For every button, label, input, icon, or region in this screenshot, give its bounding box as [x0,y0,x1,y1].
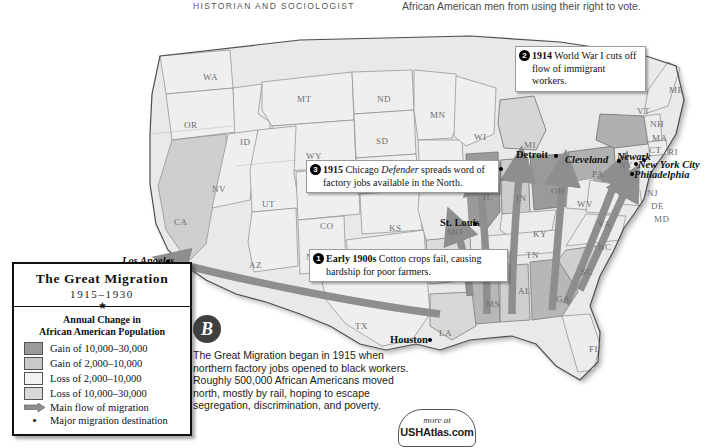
state-label-vt: VT [637,106,650,116]
legend-arrow-icon [24,403,45,412]
state-label-mt: MT [297,94,312,104]
legend-item-label: Gain of 2,000–10,000 [50,358,142,369]
city-label-cleveland: Cleveland [565,154,608,165]
state-label-ks: KS [389,223,402,233]
callout-1-number: 1 [313,253,324,264]
state-label-la: LA [439,328,452,338]
state-label-ma: MA [652,133,668,143]
state-label-nv: NV [212,184,226,194]
legend-dot-icon: • [24,416,45,426]
state-label-sd: SD [376,136,389,146]
state-label-md: MD [654,214,670,224]
callout-3-text: 1915 Chicago Defender spreads word of fa… [323,164,485,188]
state-label-fl: FL [589,344,601,354]
legend-item-label: Loss of 10,000–30,000 [50,388,147,399]
city-label-detroit: Detroit [516,149,548,160]
state-label-va: VA [598,219,611,229]
legend-item-label: Main flow of migration [50,402,149,413]
legend-subtitle-line1: Annual Change in [14,314,190,326]
city-dot-st-louis [473,222,477,226]
state-label-wv: WV [577,199,593,209]
state-label-nc: NC [598,242,612,252]
badge-line2: USHAtlas.com [399,426,475,438]
state-label-nh: NH [650,119,664,129]
state-label-de: DE [651,201,664,211]
city-dot-philadelphia [630,172,634,176]
callout-2-number: 2 [519,50,530,61]
state-label-oh: OH [551,186,565,196]
callout-1: 1 Early 1900s Cotton crops fail, causing… [309,249,508,282]
legend-swatch-icon [24,372,43,385]
city-dot-houston [428,338,432,342]
state-label-in: IN [516,193,527,203]
state-label-ca: CA [174,217,188,227]
legend-item: Loss of 10,000–30,000 [14,387,190,402]
legend-item: •Major migration destination [14,415,190,428]
legend-title: The Great Migration [18,271,186,287]
legend-swatch-icon [24,387,43,400]
state-label-tn: TN [526,250,539,260]
badge-line1: more at [399,415,475,425]
state-label-az: AZ [249,260,262,270]
legend-item-label: Major migration destination [50,415,168,426]
city-label-philadelphia: Philadelphia [634,169,689,180]
map-page: HISTORIAN AND SOCIOLOGIST African Americ… [0,0,707,448]
legend-years: 1915–1930 [18,288,186,300]
state-label-mn: MN [430,110,446,120]
callout-2-text: 1914 World War I cuts off flow of immigr… [532,50,636,86]
city-dot-new-york-city [634,162,638,166]
legend-subtitle: Annual Change in African American Popula… [14,314,190,338]
state-label-id: ID [240,137,251,147]
state-label-tx: TX [355,321,368,331]
section-marker-b: B [193,315,221,343]
state-label-ga: GA [556,294,570,304]
state-label-al: AL [518,286,531,296]
section-note-text: The Great Migration began in 1915 when n… [193,349,409,412]
state-label-nd: ND [377,94,391,104]
legend-swatch-icon [24,342,43,355]
callout-2: 2 1914 World War I cuts off flow of immi… [515,46,646,92]
legend-item: Loss of 2,000–10,000 [14,372,190,387]
state-label-ri: RI [668,147,678,157]
legend-subtitle-line2: African American Population [14,326,190,338]
legend-title-block: The Great Migration 1915–1930 [14,264,190,302]
legend-item-label: Loss of 2,000–10,000 [50,373,142,384]
legend-star-icon: ★ [14,302,190,310]
legend-item-label: Gain of 10,000–30,000 [50,343,147,354]
legend-item-list: Gain of 10,000–30,000Gain of 2,000–10,00… [14,342,190,428]
header-right-caption: African American men from using their ri… [402,0,641,12]
callout-1-text: Early 1900s Cotton crops fail, causing h… [326,253,482,277]
legend-item: Main flow of migration [14,402,190,415]
legend-swatch-icon [24,357,43,370]
state-label-wa: WA [203,72,218,82]
city-dot-chicago [499,167,503,171]
callout-3: 3 1915 Chicago Defender spreads word of … [306,160,499,193]
state-label-ms: MS [486,299,500,309]
state-label-wi: WI [474,132,487,142]
state-label-co: CO [320,221,334,231]
state-label-or: OR [184,120,198,130]
state-label-me: ME [669,85,684,95]
state-label-mo: MO [447,227,463,237]
map-legend: The Great Migration 1915–1930 ★ Annual C… [12,262,192,436]
header-left-caption: HISTORIAN AND SOCIOLOGIST [193,1,355,11]
state-label-il: IL [483,192,493,202]
legend-item: Gain of 10,000–30,000 [14,342,190,357]
more-at-badge[interactable]: more at USHAtlas.com [398,409,476,447]
state-label-ut: UT [262,199,275,209]
callout-3-number: 3 [310,164,321,175]
city-label-houston: Houston [390,334,428,345]
state-label-sc: SC [581,267,593,277]
state-label-pa: PA [592,169,604,179]
city-dot-detroit [554,154,558,158]
state-label-nj: NJ [647,188,658,198]
legend-item: Gain of 2,000–10,000 [14,357,190,372]
state-label-ky: KY [533,229,547,239]
